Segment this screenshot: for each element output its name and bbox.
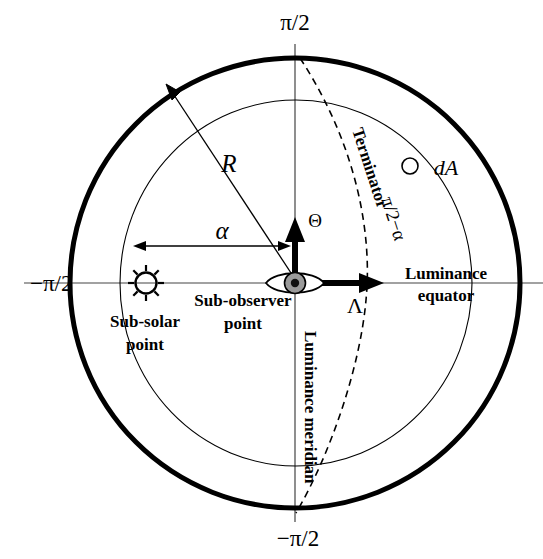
lambda-label: Λ	[347, 293, 363, 318]
luminance-meridian-label: Luminance meridian	[301, 331, 320, 484]
sub-solar-label-line2: point	[126, 335, 164, 354]
sub-observer-label-line1: Sub-observer	[194, 291, 292, 310]
dA-circle-marker	[402, 158, 418, 174]
radius-label: R	[220, 150, 236, 177]
axis-label-left: −π/2	[30, 271, 72, 296]
luminance-equator-label-line2: equator	[418, 286, 475, 305]
theta-label: Θ	[308, 210, 322, 231]
axis-label-bottom: −π/2	[277, 526, 319, 551]
axis-label-top: π/2	[280, 10, 310, 35]
luminance-equator-label-line1: Luminance	[405, 264, 488, 283]
sub-solar-label-line1: Sub-solar	[110, 312, 180, 331]
figure-canvas: π/2 −π/2 −π/2 R α Θ Λ dA Terminator π/2−…	[0, 0, 543, 559]
sub-observer-label-line2: point	[224, 314, 262, 333]
dA-label: dA	[434, 155, 459, 180]
alpha-measure-arrow	[133, 241, 291, 251]
alpha-label: α	[215, 217, 229, 244]
luminance-coordinate-diagram: π/2 −π/2 −π/2 R α Θ Λ dA Terminator π/2−…	[0, 0, 543, 559]
radius-arrow	[166, 84, 293, 276]
terminator-angle-label: π/2−α	[377, 194, 411, 243]
